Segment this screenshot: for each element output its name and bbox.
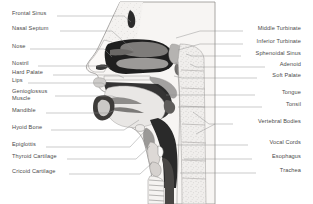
label-hyoid-bone: Hyoid Bone (12, 124, 42, 131)
label-lips: Lips (12, 77, 23, 84)
anatomy-diagram-page: Frontal SinusNasal SeptumNoseNostrilHard… (0, 0, 313, 204)
label-nostril: Nostril (12, 60, 29, 67)
hard-palate-bone (104, 76, 152, 80)
leader-thyroid-cartilage (67, 146, 150, 159)
frontal-bone (104, 2, 143, 40)
vertebral-column (178, 44, 206, 204)
label-nasal-septum: Nasal Septum (12, 25, 49, 32)
label-trachea: Trachea (280, 167, 301, 174)
label-esophagus: Esophagus (272, 153, 301, 160)
label-nose: Nose (12, 43, 26, 50)
label-cricoid-cartilage: Cricoid Cartilage (12, 168, 55, 175)
label-hard-palate: Hard Palate (12, 69, 43, 76)
label-mandible: Mandible (12, 107, 36, 114)
label-frontal-sinus: Frontal Sinus (12, 10, 47, 17)
label-middle-turbinate: Middle Turbinate (258, 25, 301, 32)
label-epiglottis: Epiglottis (12, 141, 36, 148)
label-soft-palate: Soft Palate (272, 72, 301, 79)
inferior-turbinate-structure (116, 58, 168, 70)
label-sphenoidal-sinus: Sphenoidal Sinus (256, 50, 301, 57)
leader-cricoid-cartilage (69, 163, 152, 174)
label-tonsil: Tonsil (286, 101, 301, 108)
label-thyroid-cartilage: Thyroid Cartilage (12, 153, 57, 160)
label-adenoid: Adenoid (280, 61, 301, 68)
label-inferior-turbinate: Inferior Turbinate (257, 38, 301, 45)
label-tongue: Tongue (282, 89, 301, 96)
leader-epiglottis (46, 130, 146, 147)
lips-structure (93, 78, 106, 88)
label-vocal-cords: Vocal Cords (270, 139, 301, 146)
hyoid-bone-structure (135, 125, 144, 132)
label-genioglossus-2: Muscle (12, 95, 30, 102)
label-vertebral-bodies: Vertebral Bodies (258, 118, 301, 125)
